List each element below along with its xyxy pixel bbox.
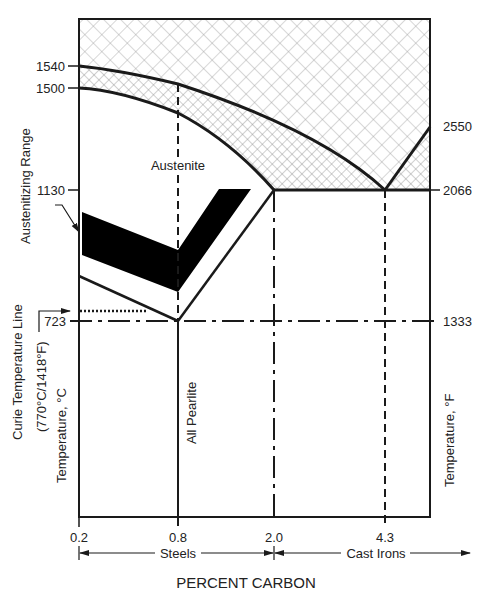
steels-range-label: Steels: [160, 546, 197, 561]
tick-label-2066: 2066: [443, 183, 472, 198]
tick-label-723: 723: [44, 314, 66, 329]
tick-label-1540: 1540: [36, 59, 65, 74]
cast-irons-range-label: Cast Irons: [346, 546, 406, 561]
austenitizing-range-label: Austenitizing Range: [18, 128, 33, 244]
y-axis-left-title: Temperature, °C: [54, 388, 69, 483]
austenitizing-leader-arrow: [55, 205, 79, 232]
tick-label-1500: 1500: [36, 81, 65, 96]
x-tick-2.0: 2.0: [265, 530, 283, 545]
curie-temp-label: (770°C/1418°F): [34, 341, 49, 432]
all-pearlite-label: All Pearlite: [184, 382, 199, 444]
austenitizing-band: [82, 189, 251, 292]
tick-label-1130: 1130: [37, 183, 65, 198]
x-axis-title: PERCENT CARBON: [176, 574, 316, 591]
y-axis-right-title: Temperature, °F: [442, 394, 457, 487]
austenite-label: Austenite: [151, 158, 205, 173]
x-tick-0.8: 0.8: [169, 530, 187, 545]
iron-carbon-diagram: 1540 1500 1130 723 2550 2066 1333 0.2 0.…: [0, 0, 490, 603]
curie-line-label: Curie Temperature Line: [10, 304, 25, 440]
tick-label-2550: 2550: [443, 119, 472, 134]
x-tick-4.3: 4.3: [376, 530, 394, 545]
tick-label-1333: 1333: [443, 314, 472, 329]
x-tick-0.2: 0.2: [70, 530, 88, 545]
